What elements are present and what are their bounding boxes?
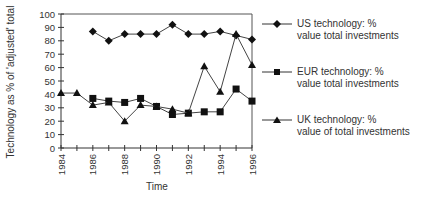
legend-label-line: EUR technology: %: [297, 66, 429, 78]
diamond-marker-icon: [153, 30, 161, 38]
y-tick-label: 20: [44, 116, 55, 127]
y-axis-title: Technology as % of 'adjusted' total: [5, 6, 16, 159]
diamond-marker-icon: [137, 30, 145, 38]
legend-label-eur: EUR technology: % value total investment…: [297, 66, 429, 90]
x-tick-label: 1984: [56, 154, 67, 175]
y-tick-label: 100: [39, 9, 55, 20]
square-marker-icon: [89, 95, 96, 102]
diamond-marker-icon: [248, 35, 256, 43]
y-tick-label: 80: [44, 35, 55, 46]
legend-label-line: UK technology: %: [297, 114, 429, 126]
triangle-marker-icon: [137, 101, 145, 108]
legend-label-uk: UK technology: % value of total investme…: [297, 114, 429, 138]
square-marker-icon: [217, 108, 224, 115]
plot-area: 0102030405060708090100198419861988199019…: [39, 9, 257, 176]
diamond-marker-icon: [121, 30, 129, 38]
y-tick-label: 70: [44, 49, 55, 60]
x-tick-label: 1986: [87, 154, 98, 175]
triangle-marker-icon: [216, 88, 224, 95]
y-tick-label: 90: [44, 22, 55, 33]
diamond-marker-icon: [184, 30, 192, 38]
y-tick-label: 50: [44, 76, 55, 87]
square-marker-icon: [121, 99, 128, 106]
y-tick-label: 30: [44, 102, 55, 113]
legend-item-us: US technology: % value total investments: [262, 18, 429, 66]
x-tick-label: 1996: [247, 154, 258, 175]
y-tick-label: 40: [44, 89, 55, 100]
x-tick-label: 1988: [119, 154, 130, 175]
x-tick-label: 1994: [215, 154, 226, 175]
square-marker-icon: [201, 108, 208, 115]
legend-item-eur: EUR technology: % value total investment…: [262, 66, 429, 114]
triangle-marker-icon: [200, 62, 208, 69]
x-tick-label: 1992: [183, 154, 194, 175]
diamond-marker-icon: [216, 27, 224, 35]
legend-label-line: value total investments: [297, 30, 429, 42]
diamond-marker-icon: [105, 37, 113, 45]
diamond-marker-icon: [168, 21, 176, 29]
x-tick-label: 1990: [151, 154, 162, 175]
x-axis-title: Time: [146, 181, 168, 192]
triangle-marker-icon: [232, 30, 240, 37]
square-marker-icon: [262, 66, 292, 78]
legend-item-uk: UK technology: % value of total investme…: [262, 114, 429, 162]
legend-label-line: value of total investments: [297, 126, 429, 138]
square-marker-icon: [233, 86, 240, 93]
legend-label-line: US technology: %: [297, 18, 429, 30]
triangle-marker-icon: [248, 61, 256, 68]
diamond-marker-icon: [200, 30, 208, 38]
square-marker-icon: [137, 95, 144, 102]
diamond-marker-icon: [89, 27, 97, 35]
square-marker-icon: [249, 98, 256, 105]
y-tick-label: 60: [44, 62, 55, 73]
legend-label-line: value total investments: [297, 78, 429, 90]
triangle-marker-icon: [262, 114, 292, 126]
y-tick-label: 0: [50, 143, 55, 154]
legend: US technology: % value total investments…: [262, 18, 429, 162]
diamond-marker-icon: [262, 18, 292, 30]
legend-label-us: US technology: % value total investments: [297, 18, 429, 42]
y-tick-label: 10: [44, 129, 55, 140]
